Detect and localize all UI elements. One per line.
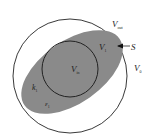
label-v-0: V0	[134, 63, 142, 74]
label-v-out: Vout	[112, 19, 124, 30]
diagram-canvas: Vout V1 S V0 Vin k1 ε1	[0, 0, 151, 140]
label-s: S	[131, 42, 136, 52]
